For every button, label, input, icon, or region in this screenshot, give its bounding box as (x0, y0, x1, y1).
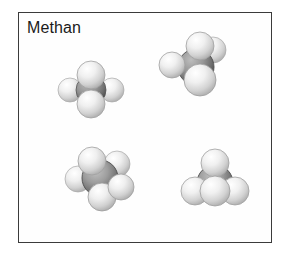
molecule-atoms (65, 147, 134, 211)
molecule-atoms (58, 61, 124, 118)
molecule-atoms (159, 32, 226, 96)
hydrogen-atom (200, 176, 230, 206)
hydrogen-atom (108, 174, 134, 200)
hydrogen-atom (78, 147, 106, 175)
methane-molecule-top-left (41, 40, 141, 140)
page-title: Methan (27, 19, 81, 37)
molecule-atoms (181, 149, 249, 206)
methane-molecule-top-right (143, 18, 243, 118)
hydrogen-atom (77, 90, 105, 118)
hydrogen-atom (77, 61, 105, 89)
hydrogen-atom (186, 32, 214, 60)
diagram-frame: Methan (18, 12, 272, 243)
hydrogen-atom (184, 64, 216, 96)
methane-molecule-bottom-right (165, 133, 265, 233)
hydrogen-atom (159, 52, 185, 78)
methane-molecule-bottom-left (51, 131, 151, 231)
hydrogen-atom (201, 149, 229, 177)
figure-root: Methan (0, 0, 286, 257)
